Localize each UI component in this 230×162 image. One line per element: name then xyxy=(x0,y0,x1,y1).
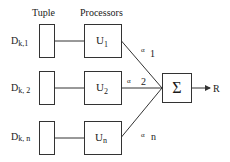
processors-header: Processors xyxy=(80,7,123,18)
weight-line-n xyxy=(122,88,163,137)
sum-icon: Σ xyxy=(172,79,181,96)
weight-sub-n: n xyxy=(151,131,156,142)
tuple-box-n xyxy=(40,122,55,155)
weight-sub-1: 1 xyxy=(150,48,155,59)
row-1: Dk,1 U1 xyxy=(11,25,122,58)
weight-symbol-2: α xyxy=(127,77,131,85)
diagram-canvas: Tuple Processors Dk,1 U1 Dk, 2 U2 Dk, n … xyxy=(0,0,230,162)
output-label: R xyxy=(213,83,220,94)
tuple-label-n: Dk, n xyxy=(11,131,30,143)
row-n: Dk, n Un xyxy=(11,122,122,155)
tuple-label-2: Dk, 2 xyxy=(11,82,30,95)
weight-sub-2: 2 xyxy=(141,76,146,87)
weight-symbol-n: α xyxy=(141,131,145,139)
diagram: Tuple Processors Dk,1 U1 Dk, 2 U2 Dk, n … xyxy=(0,0,230,162)
tuple-box-1 xyxy=(40,25,55,58)
row-2: Dk, 2 U2 xyxy=(11,72,122,105)
tuple-label-1: Dk,1 xyxy=(11,35,28,48)
tuple-box-2 xyxy=(40,72,55,105)
tuple-header: Tuple xyxy=(32,7,56,18)
weight-symbol-1: α xyxy=(141,46,145,54)
